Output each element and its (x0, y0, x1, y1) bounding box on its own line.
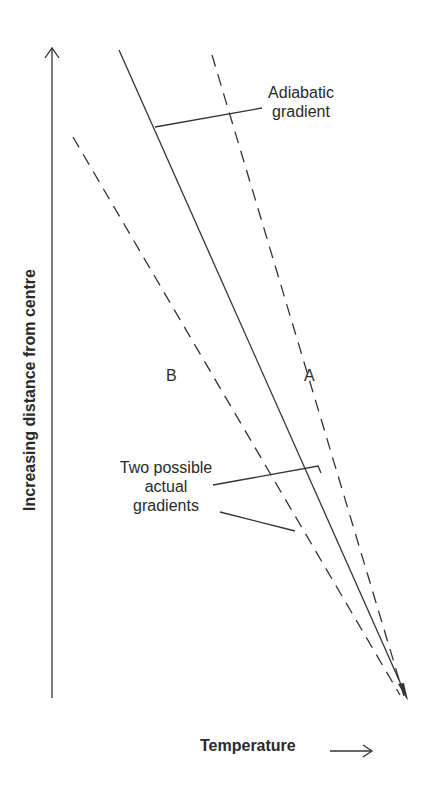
adiabatic-gradient-line (119, 50, 407, 698)
label-b: B (166, 366, 177, 385)
y-axis-label: Increasing distance from centre (21, 269, 39, 511)
label-a: A (304, 366, 315, 385)
convergence-arrowhead-icon (398, 683, 408, 701)
actual-label-line1: Two possible (100, 458, 232, 477)
adiabatic-leader (155, 108, 262, 127)
x-axis-arrow-icon (330, 745, 372, 757)
adiabatic-label-line2: gradient (258, 102, 344, 121)
y-axis (45, 48, 59, 698)
adiabatic-label-line1: Adiabatic (258, 83, 344, 102)
x-axis-label: Temperature (200, 737, 296, 755)
actual-label-line3: gradients (100, 496, 232, 515)
actual-gradients-label: Two possible actual gradients (100, 458, 232, 515)
diagram-canvas (0, 0, 430, 793)
adiabatic-label: Adiabatic gradient (258, 83, 344, 121)
gradient-b-line (73, 137, 400, 695)
actual-label-line2: actual (100, 477, 232, 496)
